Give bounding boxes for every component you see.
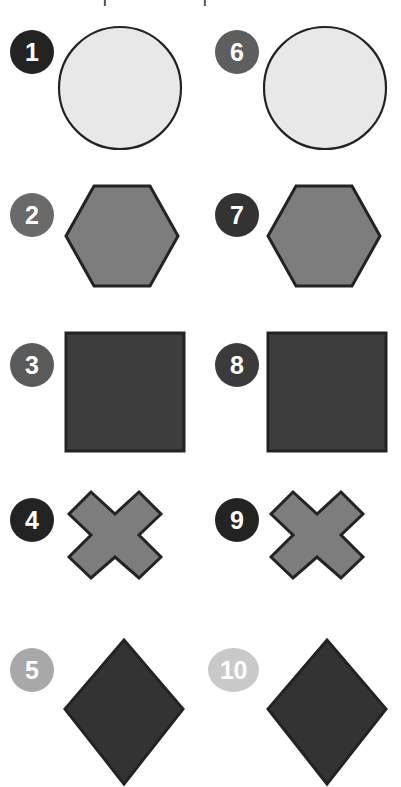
badge-2[interactable]: 2 (10, 193, 54, 237)
diamond-shape[interactable] (62, 637, 186, 787)
circle-shape[interactable] (262, 25, 388, 151)
badge-label: 3 (25, 353, 39, 378)
badge-label: 4 (25, 508, 39, 533)
badge-label: 7 (230, 203, 244, 228)
badge-label: 6 (230, 40, 244, 65)
cross-svg (268, 489, 366, 581)
badge-label: 9 (230, 508, 244, 533)
badge-9[interactable]: 9 (215, 498, 259, 542)
cross-svg (66, 489, 164, 581)
circle-svg (57, 25, 183, 151)
cross-shape[interactable] (268, 489, 366, 581)
badge-7[interactable]: 7 (215, 193, 259, 237)
hexagon-svg (265, 183, 383, 289)
cropped-header-right: | (203, 0, 207, 6)
badge-label: 8 (230, 353, 244, 378)
hexagon-shape[interactable] (63, 183, 181, 289)
badge-label: 5 (25, 658, 39, 683)
badge-label: 10 (220, 658, 247, 683)
square-shape[interactable] (266, 331, 388, 453)
badge-10[interactable]: 10 (208, 648, 259, 692)
square-svg (266, 331, 388, 453)
circle-shape[interactable] (57, 25, 183, 151)
square-svg (64, 331, 186, 453)
badge-5[interactable]: 5 (10, 648, 54, 692)
circle-svg (262, 25, 388, 151)
hexagon-svg (63, 183, 181, 289)
cross-shape[interactable] (66, 489, 164, 581)
badge-label: 1 (25, 40, 39, 65)
cropped-header-left: | (103, 0, 107, 6)
badge-1[interactable]: 1 (10, 30, 54, 74)
diamond-svg (62, 637, 186, 787)
shape-legend-board: | | 1 6 2 (0, 0, 401, 787)
diamond-svg (265, 637, 389, 787)
badge-3[interactable]: 3 (10, 343, 54, 387)
badge-8[interactable]: 8 (215, 343, 259, 387)
hexagon-shape[interactable] (265, 183, 383, 289)
square-shape[interactable] (64, 331, 186, 453)
badge-4[interactable]: 4 (10, 498, 54, 542)
badge-label: 2 (25, 203, 39, 228)
diamond-shape[interactable] (265, 637, 389, 787)
badge-6[interactable]: 6 (215, 30, 259, 74)
